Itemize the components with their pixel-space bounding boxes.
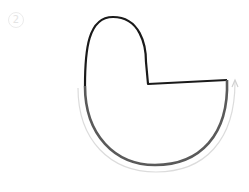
rotation-arrow-arc	[78, 82, 235, 172]
diagram-canvas: 2	[0, 0, 249, 192]
step-number-badge: 2	[8, 12, 24, 28]
shape-outline-top	[85, 17, 227, 86]
shape-diagram	[0, 0, 249, 192]
shape-outline-arc	[85, 80, 227, 165]
